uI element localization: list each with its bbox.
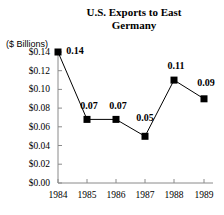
y-tick-label: $0.10 xyxy=(6,84,50,94)
y-tick-label: $0.08 xyxy=(6,103,50,113)
data-point-marker[interactable] xyxy=(142,133,149,140)
data-point-label: 0.07 xyxy=(103,100,133,111)
y-tick-label: $0.14 xyxy=(6,47,50,57)
y-tick-label: $0.00 xyxy=(6,178,50,188)
y-tick-label: $0.06 xyxy=(6,122,50,132)
data-point-marker[interactable] xyxy=(171,77,178,84)
x-tick-label: 1989 xyxy=(187,190,221,200)
x-axis-ticks xyxy=(58,179,204,183)
chart-container: U.S. Exports to East Germany ($ Billions… xyxy=(0,0,224,215)
y-axis-ticks xyxy=(58,52,62,183)
y-tick-label: $0.02 xyxy=(6,159,50,169)
data-point-marker[interactable] xyxy=(84,116,91,123)
data-point-label: 0.05 xyxy=(130,112,160,123)
data-point-marker[interactable] xyxy=(113,116,120,123)
data-point-label: 0.11 xyxy=(161,60,191,71)
data-point-marker[interactable] xyxy=(201,95,208,102)
x-tick-label: 1988 xyxy=(157,190,191,200)
y-tick-label: $0.12 xyxy=(6,66,50,76)
data-point-label: 0.09 xyxy=(191,77,221,88)
data-point-label: 0.07 xyxy=(74,100,104,111)
data-point-label: 0.14 xyxy=(60,45,90,56)
y-tick-label: $0.04 xyxy=(6,141,50,151)
